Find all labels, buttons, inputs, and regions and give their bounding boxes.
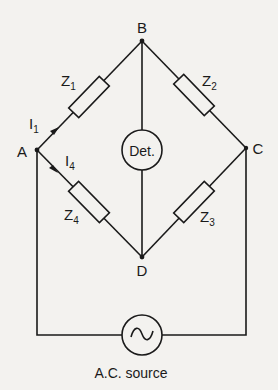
i1-label: I1 bbox=[29, 115, 39, 135]
wire-c-source bbox=[162, 148, 246, 335]
z1-label: Z1 bbox=[61, 72, 76, 92]
node-a-label: A bbox=[17, 143, 27, 160]
z2-label: Z2 bbox=[202, 72, 217, 92]
arrow-i1-icon bbox=[50, 127, 59, 135]
node-d-label: D bbox=[137, 262, 148, 279]
z4-label: Z4 bbox=[64, 206, 79, 226]
node-c-label: C bbox=[253, 140, 264, 157]
ac-source: A.C. source bbox=[94, 315, 167, 381]
node-b-label: B bbox=[137, 19, 147, 36]
wire-a-source bbox=[37, 150, 122, 335]
node-a-dot bbox=[35, 148, 40, 153]
bridge-circuit-diagram: Det. A.C. source B A C D Z1 Z2 Z3 Z4 I1 … bbox=[0, 0, 278, 390]
node-c-dot bbox=[244, 146, 248, 150]
z3-label: Z3 bbox=[200, 208, 215, 228]
node-b-dot bbox=[140, 39, 145, 44]
ac-source-label: A.C. source bbox=[94, 365, 167, 381]
detector-label: Det. bbox=[129, 143, 155, 159]
i4-label: I4 bbox=[65, 152, 75, 172]
detector: Det. bbox=[122, 130, 162, 170]
node-d-dot bbox=[140, 255, 145, 260]
current-arrows bbox=[49, 127, 59, 173]
